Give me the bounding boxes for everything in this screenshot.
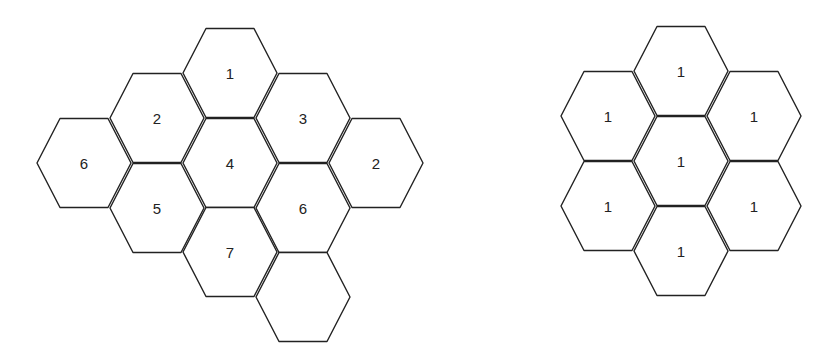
hex-label: 1 <box>677 243 685 260</box>
hex-label: 3 <box>299 110 307 127</box>
hex-label: 1 <box>750 108 758 125</box>
hexagon-diagram: 123642567 1111111 <box>0 0 834 364</box>
hex-label: 1 <box>604 108 612 125</box>
hex-label: 6 <box>299 200 307 217</box>
hex-label: 4 <box>226 155 234 172</box>
hex-label: 1 <box>677 153 685 170</box>
hex-label: 2 <box>153 110 161 127</box>
hex-label: 7 <box>226 244 234 261</box>
left-hex-cluster: 123642567 <box>37 29 423 342</box>
hex-label: 1 <box>750 198 758 215</box>
hex-label: 1 <box>226 65 234 82</box>
hex-label: 1 <box>677 63 685 80</box>
right-hex-cluster: 1111111 <box>561 27 801 296</box>
hex-label: 6 <box>80 155 88 172</box>
hex-label: 2 <box>372 155 380 172</box>
hex-label: 1 <box>604 198 612 215</box>
hex-label: 5 <box>153 200 161 217</box>
